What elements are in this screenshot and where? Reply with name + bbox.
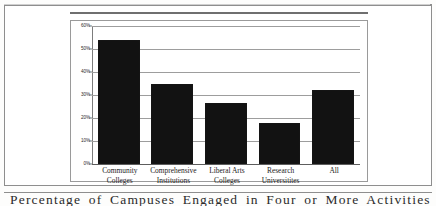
x-axis-category-label: CommunityColleges <box>93 166 147 190</box>
plot-area: 0%10%20%30%40%50%60% <box>92 26 360 164</box>
bar <box>259 123 301 164</box>
y-axis-tick-label: 60% <box>81 24 90 29</box>
y-axis-tick-label: 50% <box>81 47 90 52</box>
caption-text: Percentage of Campuses Engaged in Four o… <box>10 192 431 206</box>
bar <box>98 40 140 164</box>
x-axis-category-label: All <box>307 166 361 190</box>
figure-caption-clipped: Percentage of Campuses Engaged in Four o… <box>4 192 432 206</box>
figure-page: 0%10%20%30%40%50%60% CommunityCollegesCo… <box>0 0 436 206</box>
x-axis-category-label: Liberal ArtsColleges <box>200 166 254 190</box>
y-axis-tick-label: 40% <box>81 70 90 75</box>
y-axis-tick-label: 0% <box>84 162 90 167</box>
bar <box>205 103 247 164</box>
x-axis-category-label: ResearchUniversitites <box>254 166 308 190</box>
y-axis-tick-label: 20% <box>81 116 90 121</box>
figure-top-rule <box>70 12 368 14</box>
bar <box>312 90 354 164</box>
gridline <box>92 164 360 165</box>
y-axis-tick-label: 30% <box>81 93 90 98</box>
bar-series <box>92 26 360 164</box>
bar-chart: 0%10%20%30%40%50%60% CommunityCollegesCo… <box>70 20 368 182</box>
x-axis-category-label: ComprehensiveInstitutions <box>147 166 201 190</box>
x-axis-category-labels: CommunityCollegesComprehensiveInstitutio… <box>93 166 361 190</box>
y-axis-tick-label: 10% <box>81 139 90 144</box>
bar <box>151 84 193 165</box>
